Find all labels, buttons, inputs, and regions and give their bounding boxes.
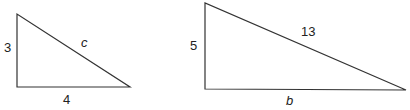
small-hypotenuse-label: c [81,36,88,49]
large-horizontal-leg-label: b [286,94,293,107]
small-vertical-leg-label: 3 [4,41,11,54]
triangles-diagram [0,0,410,110]
triangle-large [205,3,406,90]
large-vertical-leg-label: 5 [190,39,197,52]
large-hypotenuse-label: 13 [301,25,315,38]
small-horizontal-leg-label: 4 [63,93,70,106]
triangle-small [17,14,130,87]
